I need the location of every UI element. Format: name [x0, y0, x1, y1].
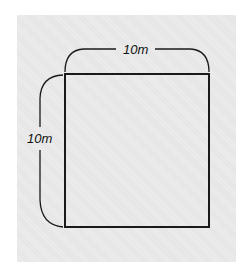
left-dimension-label: 10m [27, 131, 52, 146]
left-dimension-bracket [40, 75, 63, 227]
square-diagram: 10m 10m [0, 0, 250, 280]
top-dimension-label: 10m [123, 42, 148, 57]
square-shape [65, 74, 209, 227]
